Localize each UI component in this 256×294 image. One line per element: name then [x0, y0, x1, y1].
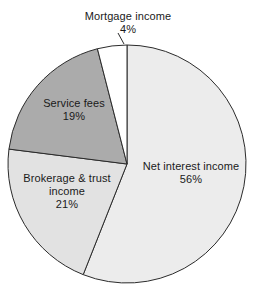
slice-label-brokerage-and-trust-income: Brokerage & trust income 21% [4, 172, 130, 211]
slice-label-mortgage-income-text: Mortgage income [85, 10, 172, 22]
slice-label-mortgage-income: Mortgage income 4% [0, 10, 256, 36]
slice-label-brokerage-text-line2: income [4, 185, 130, 198]
slice-label-service-fees-value: 19% [18, 110, 130, 123]
slice-label-service-fees: Service fees 19% [18, 97, 130, 123]
slice-label-brokerage-text-line1: Brokerage & trust [23, 172, 110, 184]
pie-chart: Mortgage income 4% Service fees 19% Brok… [0, 0, 256, 294]
slice-label-net-interest-income: Net interest income 56% [130, 160, 252, 186]
slice-label-service-fees-text: Service fees [43, 97, 105, 109]
slice-label-mortgage-income-value: 4% [0, 23, 256, 36]
pie-chart-canvas [0, 0, 256, 294]
slice-label-net-interest-income-value: 56% [130, 173, 252, 186]
slice-label-brokerage-value: 21% [4, 198, 130, 211]
slice-label-net-interest-income-text: Net interest income [143, 160, 240, 172]
